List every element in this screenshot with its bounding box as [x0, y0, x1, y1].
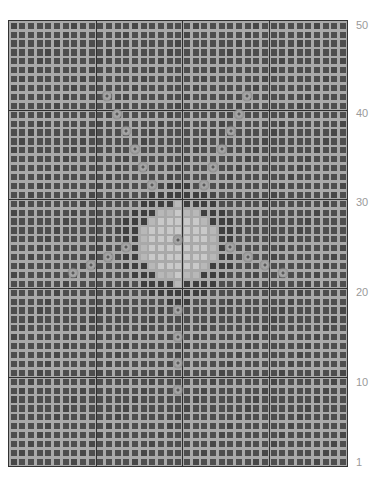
- grid-cell: [184, 192, 190, 198]
- grid-cell: [97, 396, 103, 402]
- grid-cell: [89, 32, 95, 38]
- grid-cell: [245, 76, 251, 82]
- grid-cell: [323, 174, 329, 180]
- grid-cell: [262, 192, 268, 198]
- grid-cell: [158, 307, 164, 313]
- grid-cell: [158, 121, 164, 127]
- grid-cell: [89, 94, 95, 100]
- grid-cell: [19, 432, 25, 438]
- grid-cell: [288, 210, 294, 216]
- grid-cell: [167, 129, 173, 135]
- grid-cell: [227, 192, 233, 198]
- grid-cell: [19, 210, 25, 216]
- grid-cell: [11, 441, 17, 447]
- grid-cell: [167, 121, 173, 127]
- grid-cell: [288, 370, 294, 376]
- grid-cell: [89, 361, 95, 367]
- grid-cell: [71, 405, 77, 411]
- grid-cell: [167, 236, 173, 242]
- grid-cell: [71, 379, 77, 385]
- grid-cell: [262, 58, 268, 64]
- grid-cell: [28, 263, 34, 269]
- grid-cell: [19, 138, 25, 144]
- grid-cell: [37, 325, 43, 331]
- grid-cell: [193, 227, 199, 233]
- grid-cell: [279, 94, 285, 100]
- grid-cell: [175, 441, 181, 447]
- grid-cell: [210, 263, 216, 269]
- grid-cell: [340, 201, 346, 207]
- grid-cell: [89, 121, 95, 127]
- grid-cell: [193, 450, 199, 456]
- grid-cell: [262, 396, 268, 402]
- grid-cell: [271, 218, 277, 224]
- grid-cell: [19, 263, 25, 269]
- grid-cell: [314, 218, 320, 224]
- grid-cell: [236, 58, 242, 64]
- grid-cell: [262, 210, 268, 216]
- grid-cell: [97, 183, 103, 189]
- grid-cell: [149, 343, 155, 349]
- grid-cell: [184, 316, 190, 322]
- grid-cell: [271, 245, 277, 251]
- grid-cell: [106, 23, 112, 29]
- grid-cell: [63, 370, 69, 376]
- grid-cell: [80, 307, 86, 313]
- grid-cell: [97, 441, 103, 447]
- bead-icon: [261, 261, 270, 270]
- grid-cell: [314, 23, 320, 29]
- grid-cell: [115, 156, 121, 162]
- grid-cell: [28, 272, 34, 278]
- grid-cell: [175, 405, 181, 411]
- grid-cell: [201, 67, 207, 73]
- grid-cell: [305, 40, 311, 46]
- grid-cell: [236, 76, 242, 82]
- grid-cell: [132, 414, 138, 420]
- grid-cell: [89, 370, 95, 376]
- grid-cell: [97, 23, 103, 29]
- grid-cell: [227, 334, 233, 340]
- grid-cell: [201, 112, 207, 118]
- grid-cell: [323, 388, 329, 394]
- grid-cell: [245, 227, 251, 233]
- grid-cell: [158, 147, 164, 153]
- grid-cell: [201, 218, 207, 224]
- grid-cell: [201, 138, 207, 144]
- grid-cell: [11, 414, 17, 420]
- grid-cell: [45, 121, 51, 127]
- grid-cell: [11, 156, 17, 162]
- grid-cell: [227, 272, 233, 278]
- grid-cell: [37, 316, 43, 322]
- grid-cell: [331, 218, 337, 224]
- grid-cell: [175, 174, 181, 180]
- grid-cell: [132, 423, 138, 429]
- grid-cell: [167, 138, 173, 144]
- grid-cell: [115, 227, 121, 233]
- grid-cell: [80, 272, 86, 278]
- bead-icon: [139, 163, 148, 172]
- grid-cell: [89, 432, 95, 438]
- grid-cell: [63, 40, 69, 46]
- grid-cell: [297, 218, 303, 224]
- grid-cell: [193, 441, 199, 447]
- grid-cell: [314, 49, 320, 55]
- grid-cell: [227, 396, 233, 402]
- grid-cell: [184, 49, 190, 55]
- grid-cell: [11, 174, 17, 180]
- grid-cell: [89, 334, 95, 340]
- grid-cell: [132, 263, 138, 269]
- grid-cell: [45, 23, 51, 29]
- grid-cell: [115, 76, 121, 82]
- grid-cell: [132, 49, 138, 55]
- grid-cell: [19, 103, 25, 109]
- grid-cell: [149, 32, 155, 38]
- grid-cell: [253, 316, 259, 322]
- grid-cell: [210, 94, 216, 100]
- grid-cell: [340, 290, 346, 296]
- grid-cell: [271, 32, 277, 38]
- grid-cell: [123, 67, 129, 73]
- grid-cell: [305, 129, 311, 135]
- bead-icon: [69, 269, 78, 278]
- grid-cell: [288, 156, 294, 162]
- grid-cell: [314, 32, 320, 38]
